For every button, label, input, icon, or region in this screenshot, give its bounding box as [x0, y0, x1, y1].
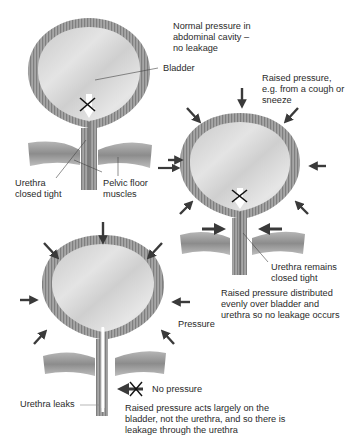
- label-urethra-leaks: Urethra leaks: [20, 399, 75, 410]
- label-no-pressure: No pressure: [152, 384, 202, 395]
- label-urethra-remains-closed: Urethra remains closed tight: [271, 262, 337, 284]
- description-leak: Raised pressure acts largely on the blad…: [125, 403, 285, 436]
- label-pressure: Pressure: [178, 319, 215, 330]
- caption-normal-pressure: Normal pressure in abdominal cavity – no…: [173, 21, 251, 54]
- label-pelvic-floor: Pelvic floor muscles: [103, 178, 148, 200]
- bladder-raised-distributed: [168, 88, 326, 275]
- description-distributed: Raised pressure distributed evenly over …: [221, 288, 340, 321]
- label-urethra-closed: Urethra closed tight: [15, 178, 61, 200]
- pelvic-floor-left: [28, 142, 80, 166]
- label-bladder: Bladder: [163, 63, 195, 74]
- pelvic-floor-right: [98, 142, 152, 168]
- bladder-normal: [28, 18, 158, 190]
- caption-raised-pressure: Raised pressure, e.g. from a cough or sn…: [262, 73, 344, 106]
